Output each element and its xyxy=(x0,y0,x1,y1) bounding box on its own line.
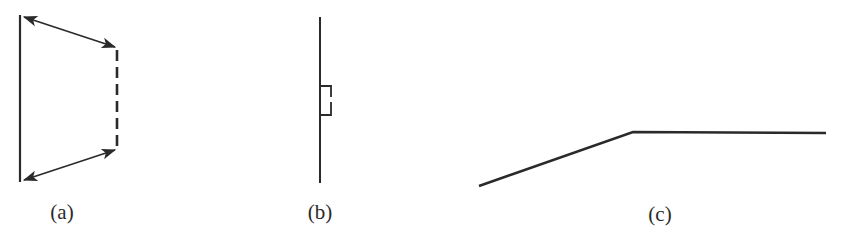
panel-a-label: (a) xyxy=(50,200,73,225)
panel-c xyxy=(479,132,826,186)
bracket-lower xyxy=(320,102,331,115)
double-arrow-bottom xyxy=(24,150,115,180)
panel-a xyxy=(20,15,117,182)
panel-b-label: (b) xyxy=(308,200,333,225)
bracket-upper xyxy=(320,86,331,97)
double-arrow-top xyxy=(24,17,115,47)
figure-svg xyxy=(0,0,848,240)
panel-c-label: (c) xyxy=(648,202,671,227)
figure-canvas: (a) (b) (c) xyxy=(0,0,848,240)
ramp-polyline xyxy=(479,132,826,186)
panel-b xyxy=(320,17,331,183)
